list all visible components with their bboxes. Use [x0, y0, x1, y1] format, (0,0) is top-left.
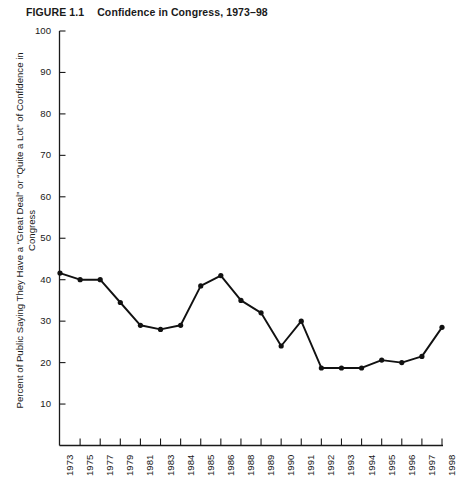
- y-tick-label-60: 60: [27, 192, 51, 202]
- y-tick-label-100: 100: [27, 26, 51, 36]
- x-tick-label-1977: 1977: [105, 455, 115, 476]
- x-tick-label-1995: 1995: [387, 455, 397, 476]
- x-tick-label-1992: 1992: [326, 455, 336, 476]
- x-tick-label-1973: 1973: [65, 455, 75, 476]
- y-tick-label-20: 20: [27, 358, 51, 368]
- x-tick-label-1989: 1989: [266, 455, 276, 476]
- y-tick-label-40: 40: [27, 275, 51, 285]
- data-point-1986: [218, 273, 223, 278]
- confidence-series-line: [60, 273, 442, 368]
- confidence-series-points: [57, 270, 444, 370]
- x-tick-label-1993: 1993: [346, 455, 356, 476]
- x-tick-label-1988: 1988: [246, 455, 256, 476]
- x-tick-label-1979: 1979: [125, 455, 135, 476]
- x-tick-label-1998: 1998: [447, 455, 457, 476]
- x-tick-label-1997: 1997: [427, 455, 437, 476]
- x-tick-label-1985: 1985: [206, 455, 216, 476]
- data-point-1989: [258, 310, 263, 315]
- data-point-1973: [57, 270, 62, 275]
- data-point-1994: [359, 365, 364, 370]
- chart-axes: [60, 31, 444, 446]
- y-tick-label-10: 10: [27, 399, 51, 409]
- data-point-1992: [319, 365, 324, 370]
- data-point-1977: [98, 277, 103, 282]
- data-point-1975: [78, 277, 83, 282]
- x-tick-label-1991: 1991: [306, 455, 316, 476]
- y-tick-label-80: 80: [27, 109, 51, 119]
- x-tick-label-1975: 1975: [85, 455, 95, 476]
- data-point-1984: [178, 323, 183, 328]
- data-point-1998: [439, 325, 444, 330]
- data-point-1996: [399, 360, 404, 365]
- data-point-1979: [118, 300, 123, 305]
- y-tick-label-30: 30: [27, 316, 51, 326]
- data-point-1993: [339, 365, 344, 370]
- x-tick-label-1986: 1986: [226, 455, 236, 476]
- y-tick-label-70: 70: [27, 150, 51, 160]
- data-point-1990: [279, 343, 284, 348]
- data-point-1997: [419, 354, 424, 359]
- y-tick-label-50: 50: [27, 233, 51, 243]
- x-tick-label-1994: 1994: [367, 455, 377, 476]
- x-tick-label-1983: 1983: [166, 455, 176, 476]
- data-point-1995: [379, 358, 384, 363]
- x-tick-label-1981: 1981: [145, 455, 155, 476]
- x-tick-label-1996: 1996: [407, 455, 417, 476]
- data-point-1985: [198, 283, 203, 288]
- x-axis-ticks: [80, 439, 442, 446]
- data-point-1983: [158, 327, 163, 332]
- y-axis-ticks: [60, 31, 66, 404]
- y-tick-label-90: 90: [27, 67, 51, 77]
- x-tick-label-1984: 1984: [186, 455, 196, 476]
- x-tick-label-1990: 1990: [286, 455, 296, 476]
- data-point-1991: [299, 319, 304, 324]
- data-point-1981: [138, 323, 143, 328]
- data-point-1988: [238, 298, 243, 303]
